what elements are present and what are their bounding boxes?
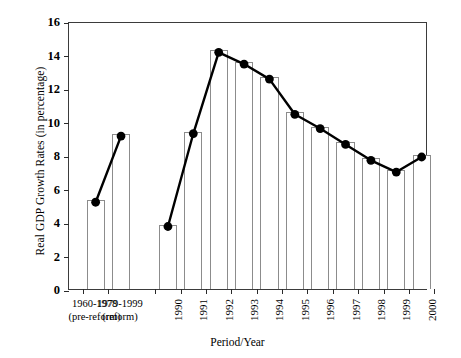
data-point-marker: 1999: 7.1 [392,168,401,177]
data-point-marker: 1979-1999 (reform): 9.25 [117,132,126,141]
x-axis-year-label: 2000 [426,299,438,321]
line-series-overlay: 1960-1978 (pre-reform): 5.31979-1999 (re… [69,23,428,291]
data-point-marker: 1992: 14.25 [214,48,223,57]
y-axis-tick-label: 2 [30,249,60,266]
data-point-marker: 1994: 12.65 [265,75,274,84]
y-axis-tick-label: 0 [30,282,60,299]
data-point-marker: 2000: 8 [417,153,426,162]
chart-figure: Real GDP Growth Rates (in percentage) 02… [0,0,461,358]
data-point-marker: 1996: 9.7 [316,124,325,133]
data-point-marker: 1960-1978 (pre-reform): 5.3 [91,198,100,207]
y-axis-tick-label: 14 [30,48,60,65]
data-point-marker: 1998: 7.8 [367,156,376,165]
y-axis-tick-label: 16 [30,14,60,31]
data-point-marker: 1997: 8.75 [341,140,350,149]
line-path [168,52,422,226]
x-axis-year-label: 1993 [248,299,260,321]
x-axis-year-label: 1997 [350,299,362,321]
y-axis-tick-label: 6 [30,182,60,199]
x-axis-title: Period/Year [0,336,461,348]
x-axis-year-label: 1995 [299,299,311,321]
data-point-marker: 1995: 10.55 [290,110,299,119]
x-axis-category-label: 1979-1999(reform) [75,298,165,323]
y-axis-tick-label: 12 [30,81,60,98]
x-axis-year-label: 1996 [324,299,336,321]
data-point-marker: 1990: 3.85 [164,222,173,231]
plot-area: 0246810121416 1960-1978 (pre-reform): 5.… [68,22,427,290]
data-point-marker: 1993: 13.55 [240,60,249,69]
x-axis-year-label: 1990 [172,299,184,321]
x-axis-category-label-line2: (reform) [75,311,165,324]
x-axis-year-label: 1992 [223,299,235,321]
x-axis-tick-mark [434,289,435,294]
y-axis-tick-label: 4 [30,215,60,232]
x-axis-year-label: 1999 [400,299,412,321]
x-axis-year-label: 1994 [273,299,285,321]
y-axis-tick-label: 10 [30,115,60,132]
x-axis-category-label-line1: 1979-1999 [75,298,165,311]
x-axis-year-label: 1998 [375,299,387,321]
x-axis-year-label: 1991 [197,299,209,321]
data-point-marker: 1991: 9.4 [189,129,198,138]
x-axis-title-text: Period/Year [196,336,264,348]
line-path [96,136,121,202]
y-axis-tick-label: 8 [30,148,60,165]
